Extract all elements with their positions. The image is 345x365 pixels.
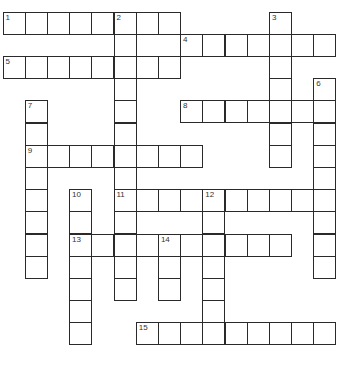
- crossword-cell[interactable]: [25, 56, 48, 79]
- crossword-cell[interactable]: 2: [114, 12, 137, 35]
- crossword-cell[interactable]: [114, 100, 137, 123]
- crossword-cell[interactable]: [202, 278, 225, 301]
- crossword-cell[interactable]: [91, 234, 114, 257]
- crossword-cell[interactable]: [269, 34, 292, 57]
- crossword-cell[interactable]: 6: [313, 78, 336, 101]
- crossword-cell[interactable]: [247, 322, 270, 345]
- crossword-cell[interactable]: [269, 145, 292, 168]
- crossword-cell[interactable]: [313, 234, 336, 257]
- crossword-cell[interactable]: [69, 145, 92, 168]
- crossword-cell[interactable]: [269, 56, 292, 79]
- crossword-cell[interactable]: 11: [114, 189, 137, 212]
- crossword-cell[interactable]: [291, 322, 314, 345]
- crossword-cell[interactable]: [91, 145, 114, 168]
- crossword-cell[interactable]: [269, 78, 292, 101]
- crossword-cell[interactable]: 12: [202, 189, 225, 212]
- crossword-cell[interactable]: 13: [69, 234, 92, 257]
- crossword-cell[interactable]: [202, 256, 225, 279]
- crossword-cell[interactable]: [47, 12, 70, 35]
- crossword-cell[interactable]: 7: [25, 100, 48, 123]
- crossword-cell[interactable]: [69, 256, 92, 279]
- crossword-cell[interactable]: [158, 56, 181, 79]
- crossword-cell[interactable]: [247, 34, 270, 57]
- crossword-cell[interactable]: [313, 145, 336, 168]
- crossword-cell[interactable]: [269, 123, 292, 146]
- crossword-cell[interactable]: [114, 123, 137, 146]
- crossword-cell[interactable]: 10: [69, 189, 92, 212]
- crossword-cell[interactable]: [158, 145, 181, 168]
- crossword-cell[interactable]: [313, 34, 336, 57]
- crossword-cell[interactable]: [269, 100, 292, 123]
- crossword-cell[interactable]: [291, 189, 314, 212]
- crossword-cell[interactable]: [202, 234, 225, 257]
- crossword-cell[interactable]: [269, 322, 292, 345]
- crossword-cell[interactable]: 4: [180, 34, 203, 57]
- crossword-cell[interactable]: 5: [3, 56, 26, 79]
- crossword-cell[interactable]: [69, 278, 92, 301]
- crossword-cell[interactable]: [114, 211, 137, 234]
- crossword-cell[interactable]: 3: [269, 12, 292, 35]
- crossword-cell[interactable]: [136, 234, 159, 257]
- crossword-cell[interactable]: [114, 56, 137, 79]
- crossword-cell[interactable]: [313, 189, 336, 212]
- crossword-cell[interactable]: 1: [3, 12, 26, 35]
- crossword-cell[interactable]: [158, 256, 181, 279]
- crossword-cell[interactable]: [69, 211, 92, 234]
- crossword-cell[interactable]: [69, 12, 92, 35]
- crossword-cell[interactable]: [69, 56, 92, 79]
- crossword-cell[interactable]: [225, 234, 248, 257]
- crossword-cell[interactable]: [69, 322, 92, 345]
- crossword-cell[interactable]: [180, 234, 203, 257]
- crossword-cell[interactable]: [158, 322, 181, 345]
- crossword-cell[interactable]: [25, 123, 48, 146]
- crossword-cell[interactable]: [313, 322, 336, 345]
- crossword-cell[interactable]: [313, 123, 336, 146]
- crossword-cell[interactable]: [313, 211, 336, 234]
- crossword-cell[interactable]: [25, 256, 48, 279]
- crossword-cell[interactable]: [25, 12, 48, 35]
- crossword-cell[interactable]: [180, 189, 203, 212]
- crossword-cell[interactable]: [47, 145, 70, 168]
- crossword-cell[interactable]: [158, 12, 181, 35]
- crossword-cell[interactable]: [136, 145, 159, 168]
- crossword-cell[interactable]: [158, 278, 181, 301]
- crossword-cell[interactable]: 8: [180, 100, 203, 123]
- crossword-cell[interactable]: [25, 167, 48, 190]
- crossword-cell[interactable]: [269, 234, 292, 257]
- crossword-cell[interactable]: [136, 189, 159, 212]
- crossword-cell[interactable]: [25, 234, 48, 257]
- crossword-cell[interactable]: [247, 189, 270, 212]
- crossword-cell[interactable]: [91, 56, 114, 79]
- crossword-cell[interactable]: [69, 300, 92, 323]
- crossword-cell[interactable]: [247, 100, 270, 123]
- crossword-cell[interactable]: [225, 322, 248, 345]
- crossword-cell[interactable]: [158, 189, 181, 212]
- crossword-cell[interactable]: [114, 145, 137, 168]
- crossword-cell[interactable]: [225, 34, 248, 57]
- crossword-cell[interactable]: [114, 234, 137, 257]
- crossword-cell[interactable]: [180, 322, 203, 345]
- crossword-cell[interactable]: [202, 211, 225, 234]
- crossword-cell[interactable]: [202, 300, 225, 323]
- crossword-cell[interactable]: [180, 145, 203, 168]
- crossword-cell[interactable]: 9: [25, 145, 48, 168]
- crossword-cell[interactable]: [114, 78, 137, 101]
- crossword-cell[interactable]: [247, 234, 270, 257]
- crossword-cell[interactable]: [313, 167, 336, 190]
- crossword-cell[interactable]: [225, 100, 248, 123]
- crossword-cell[interactable]: [225, 189, 248, 212]
- crossword-cell[interactable]: [269, 189, 292, 212]
- crossword-cell[interactable]: [291, 34, 314, 57]
- crossword-cell[interactable]: [114, 256, 137, 279]
- crossword-cell[interactable]: [313, 100, 336, 123]
- crossword-cell[interactable]: [25, 211, 48, 234]
- crossword-cell[interactable]: 15: [136, 322, 159, 345]
- crossword-cell[interactable]: [202, 34, 225, 57]
- crossword-cell[interactable]: [291, 100, 314, 123]
- crossword-cell[interactable]: [136, 12, 159, 35]
- crossword-cell[interactable]: [25, 189, 48, 212]
- crossword-cell[interactable]: [47, 56, 70, 79]
- crossword-cell[interactable]: [91, 12, 114, 35]
- crossword-cell[interactable]: [313, 256, 336, 279]
- crossword-cell[interactable]: [136, 56, 159, 79]
